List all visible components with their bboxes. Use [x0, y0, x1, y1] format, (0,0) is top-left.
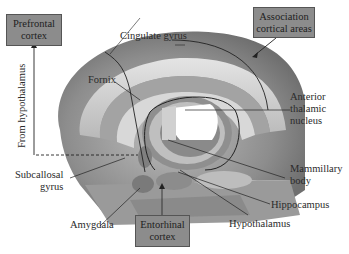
label-hypothalamus: Hypothalamus	[229, 218, 290, 230]
label-line: gyrus	[15, 181, 63, 193]
box-label-line: Prefrontal	[7, 18, 61, 30]
box-label-line: cortical areas	[254, 23, 314, 35]
prefrontal-cortex-box: Prefrontal cortex	[6, 14, 62, 46]
box-label-line: cortex	[136, 231, 189, 243]
entorhinal-cortex-box: Entorhinal cortex	[135, 215, 190, 247]
box-label-line: Entorhinal	[136, 219, 189, 231]
label-cingulate-gyrus: Cingulate gyrus	[120, 30, 187, 42]
association-cortical-areas-box: Association cortical areas	[253, 7, 315, 38]
label-line: Anterior	[290, 91, 326, 103]
label-amygdala: Amygdala	[70, 219, 114, 231]
label-anterior-thalamic-nucleus: Anterior thalamic nucleus	[290, 91, 326, 127]
box-label-line: cortex	[7, 30, 61, 42]
label-fornix: Fornix	[88, 74, 116, 86]
label-line: Mammillary	[290, 163, 343, 175]
label-from-hypothalamus: From hypothalamus	[16, 64, 27, 148]
label-mammillary-body: Mammillary body	[290, 163, 343, 187]
label-line: Subcallosal	[15, 169, 63, 181]
label-line: thalamic	[290, 103, 326, 115]
label-subcallosal-gyrus: Subcallosal gyrus	[15, 169, 63, 193]
label-hippocampus: Hippocampus	[271, 199, 329, 211]
label-line: nucleus	[290, 115, 326, 127]
box-label-line: Association	[254, 11, 314, 23]
label-line: body	[290, 175, 343, 187]
